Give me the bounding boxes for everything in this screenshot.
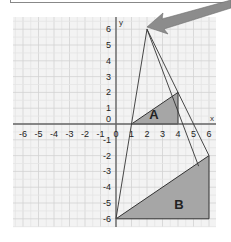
x-tick-label: -4 bbox=[50, 129, 58, 139]
y-tick-label: 2 bbox=[106, 87, 111, 97]
x-tick-label: 4 bbox=[175, 129, 180, 139]
y-tick-label: -1 bbox=[103, 135, 111, 145]
y-tick-label: -6 bbox=[103, 214, 111, 224]
y-tick-label: 1 bbox=[106, 103, 111, 113]
x-tick-label: 6 bbox=[206, 129, 211, 139]
x-tick-label: 5 bbox=[191, 129, 196, 139]
y-axis-label: y bbox=[119, 18, 123, 27]
y-tick-label: -5 bbox=[103, 198, 111, 208]
x-tick-label: 1 bbox=[129, 129, 134, 139]
y-tick-label: -2 bbox=[103, 151, 111, 161]
x-tick-label: 2 bbox=[144, 129, 149, 139]
x-tick-label: -3 bbox=[65, 129, 73, 139]
x-tick-label: 0 bbox=[113, 129, 118, 139]
x-tick-label: 3 bbox=[160, 129, 165, 139]
y-tick-label: -4 bbox=[103, 182, 111, 192]
x-tick-label: -2 bbox=[81, 129, 89, 139]
x-tick-label: -6 bbox=[19, 129, 27, 139]
coordinate-diagram: -6-5-4-3-2-10123456 6543210-1-2-3-4-5-6 … bbox=[0, 0, 231, 242]
x-tick-label: -5 bbox=[34, 129, 42, 139]
y-tick-label: 4 bbox=[106, 56, 111, 66]
y-tick-label: 5 bbox=[106, 40, 111, 50]
shape-a-label: A bbox=[149, 107, 159, 122]
y-tick-label: -3 bbox=[103, 166, 111, 176]
y-tick-label: 0 bbox=[106, 114, 111, 124]
x-axis-label: x bbox=[210, 114, 214, 123]
y-tick-label: 6 bbox=[106, 24, 111, 34]
shape-b-label: B bbox=[174, 197, 183, 212]
y-tick-label: 3 bbox=[106, 72, 111, 82]
